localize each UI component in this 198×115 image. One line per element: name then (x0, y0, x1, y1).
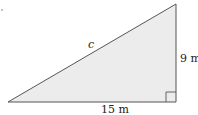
hypotenuse-label: c (88, 39, 94, 50)
vertical-side-label: 9 m (180, 53, 198, 64)
dot-mark (1, 9, 3, 11)
horizontal-side-label: 15 m (101, 104, 129, 115)
right-triangle (8, 4, 176, 102)
triangle-figure (0, 0, 198, 115)
